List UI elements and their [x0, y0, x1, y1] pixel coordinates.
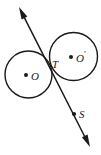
arrowhead-down-right-icon	[82, 135, 90, 148]
figure-canvas: O O ' T S	[0, 0, 101, 155]
center-dot-o-prime	[69, 55, 73, 59]
label-tangent-point-t: T	[52, 58, 59, 70]
circle-o-prime	[50, 33, 98, 81]
geometry-figure: O O ' T S	[0, 0, 101, 155]
arrowhead-up-left-icon	[19, 7, 27, 19]
circle-o	[5, 51, 52, 98]
secant-line-group	[19, 7, 90, 147]
label-center-o-prime-mark: '	[84, 49, 87, 59]
center-dot-o	[24, 73, 28, 77]
label-center-o: O	[31, 70, 39, 82]
point-dot-s	[72, 112, 76, 116]
label-point-s: S	[79, 108, 85, 120]
